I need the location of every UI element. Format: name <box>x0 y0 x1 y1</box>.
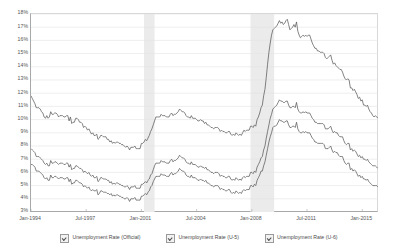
x-axis-tick-label: Jan-1994 <box>10 216 50 221</box>
y-axis-tick-label: 18% <box>18 10 28 15</box>
y-axis-tick-label: 17% <box>18 24 28 29</box>
y-axis-tick-label: 5% <box>21 182 29 187</box>
legend-item-label: Unemployment Rate (U-5) <box>178 235 239 240</box>
x-axis-tick-label: Jan-2008 <box>231 216 271 221</box>
y-axis-tick-label: 11% <box>18 103 28 108</box>
unemployment-rate-chart: 18%17%16%15%14%13%12%11%10%9%8%7%6%5%4%3… <box>0 0 398 250</box>
chart-canvas <box>31 14 378 212</box>
y-axis-tick-label: 10% <box>18 116 28 121</box>
legend-item[interactable]: Unemployment Rate (U-5) <box>166 234 239 243</box>
legend-item[interactable]: Unemployment Rate (Official) <box>60 234 140 243</box>
x-axis-tick-label: Jan-2015 <box>341 216 381 221</box>
checkbox-checked-icon[interactable] <box>60 234 69 243</box>
x-axis-tick-label: Jan-2001 <box>120 216 160 221</box>
y-axis-tick-label: 4% <box>21 195 29 200</box>
y-axis: 18%17%16%15%14%13%12%11%10%9%8%7%6%5%4%3… <box>0 0 28 250</box>
x-axis-tick-label: Jul-2011 <box>286 216 326 221</box>
y-axis-tick-label: 8% <box>21 142 29 147</box>
legend-item-label: Unemployment Rate (Official) <box>72 235 140 240</box>
y-axis-tick-label: 6% <box>21 169 29 174</box>
y-axis-tick-label: 15% <box>18 50 28 55</box>
legend-item-label: Unemployment Rate (U-6) <box>277 235 338 240</box>
legend-item[interactable]: Unemployment Rate (U-6) <box>265 234 338 243</box>
chart-legend: Unemployment Rate (Official)Unemployment… <box>0 231 398 245</box>
x-axis-tick-label: Jul-1997 <box>65 216 105 221</box>
y-axis-tick-label: 16% <box>18 37 28 42</box>
checkbox-checked-icon[interactable] <box>166 234 175 243</box>
data-series-line <box>31 19 378 150</box>
x-axis-tick-label: Jul-2004 <box>176 216 216 221</box>
y-axis-tick-label: 9% <box>21 129 29 134</box>
y-axis-tick-label: 14% <box>18 63 28 68</box>
x-axis: Jan-1994Jul-1997Jan-2001Jul-2004Jan-2008… <box>0 216 398 228</box>
y-axis-tick-label: 7% <box>21 156 29 161</box>
plot-area <box>30 13 378 212</box>
y-axis-tick-label: 12% <box>18 90 28 95</box>
data-series-line <box>31 100 378 190</box>
checkbox-checked-icon[interactable] <box>265 234 274 243</box>
recession-band <box>251 14 275 212</box>
y-axis-tick-label: 3% <box>21 208 29 213</box>
y-axis-tick-label: 13% <box>18 76 28 81</box>
data-series-line <box>31 120 378 202</box>
